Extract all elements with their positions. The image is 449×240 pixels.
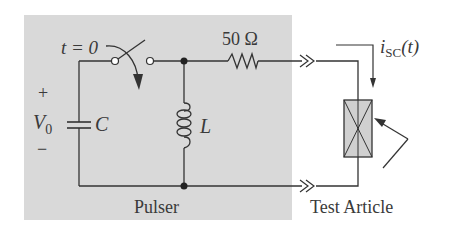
current-arg: (t) [401,36,419,57]
current-arrow-icon [336,45,373,80]
source-voltage-sub: 0 [45,122,52,137]
current-arrowhead-icon [370,78,376,88]
source-voltage-main: V [33,111,45,133]
source-plus-label: + [38,84,48,102]
connector-chevron-top [300,55,314,67]
test-article-symbol [344,100,372,157]
test-article-pointer-arrowhead-icon [374,118,386,127]
current-label: iSC(t) [380,37,419,56]
connector-chevron-bottom [300,180,314,192]
source-minus-label: − [37,140,47,158]
test-article-label: Test Article [310,198,393,216]
switch-terminal-right [147,58,154,65]
current-sub: SC [385,45,401,60]
junction-dot-top [181,58,188,65]
switch-terminal-left [112,58,119,65]
capacitor-label: C [95,114,108,134]
test-article-pointer [383,139,408,168]
pulser-label: Pulser [134,198,179,216]
source-voltage-label: V0 [33,112,52,132]
junction-dot-bottom [181,183,188,190]
switch-time-label: t = 0 [61,38,98,57]
resistor-label: 50 Ω [222,30,258,48]
top-wire-out [316,61,358,100]
bottom-wire-out [316,157,358,186]
switch-time-text: t = 0 [61,37,98,58]
inductor-label: L [200,116,211,136]
